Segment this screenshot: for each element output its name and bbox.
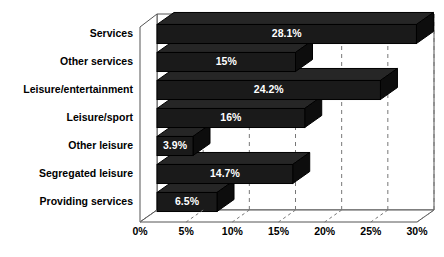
value-tick-label: 10% xyxy=(222,225,244,237)
bar-value-label: 24.2% xyxy=(254,83,284,95)
value-tick-label: 5% xyxy=(179,225,195,237)
value-axis-labels: 0%5%10%15%20%25%30% xyxy=(132,225,428,237)
category-label: Other services xyxy=(60,55,133,67)
bar-value-label: 14.7% xyxy=(210,167,240,179)
category-label: Services xyxy=(90,27,133,39)
value-tick-label: 20% xyxy=(314,225,336,237)
category-axis-labels: ServicesOther servicesLeisure/entertainm… xyxy=(23,27,133,207)
value-tick-label: 0% xyxy=(132,225,148,237)
bar: 6.5% xyxy=(157,180,234,211)
value-tick-label: 15% xyxy=(268,225,290,237)
category-label: Providing services xyxy=(40,195,134,207)
value-tick-label: 30% xyxy=(406,225,428,237)
chart-canvas: 6.5%14.7%3.9%16%24.2%15%28.1% ServicesOt… xyxy=(0,0,444,257)
category-label: Other leisure xyxy=(68,139,133,151)
bar: 16% xyxy=(157,96,322,127)
bar-value-label: 16% xyxy=(220,111,242,123)
bar-value-label: 15% xyxy=(216,55,238,67)
category-label: Segregated leisure xyxy=(39,167,133,179)
value-tick-label: 25% xyxy=(360,225,382,237)
bar-chart-figure: 6.5%14.7%3.9%16%24.2%15%28.1% ServicesOt… xyxy=(0,0,444,257)
category-label: Leisure/entertainment xyxy=(23,83,133,95)
bar: 15% xyxy=(157,40,313,71)
bar: 24.2% xyxy=(157,68,397,99)
bar-value-label: 3.9% xyxy=(163,139,188,151)
bar-value-label: 6.5% xyxy=(175,195,200,207)
bar-value-label: 28.1% xyxy=(272,27,302,39)
plot-left-wall xyxy=(140,14,157,222)
bar: 14.7% xyxy=(157,152,310,183)
category-label: Leisure/sport xyxy=(66,111,133,123)
bar: 28.1% xyxy=(157,12,433,43)
